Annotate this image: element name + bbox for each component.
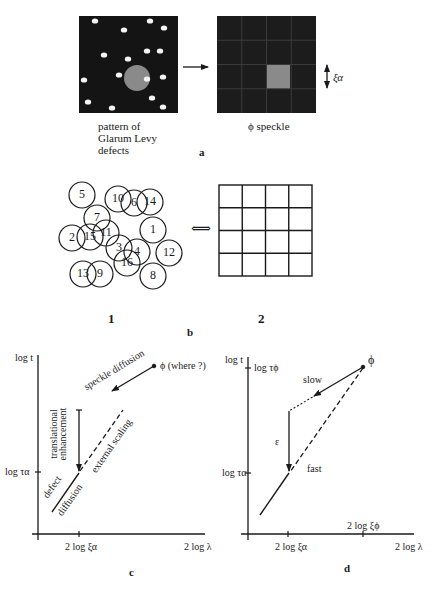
label-1: 1 bbox=[108, 311, 115, 327]
defect-caption-line-1: pattern of bbox=[98, 120, 140, 132]
panel-d-plot bbox=[241, 357, 414, 540]
defect-dot bbox=[149, 95, 155, 100]
defect-dot bbox=[116, 72, 122, 77]
defect-caption-line-3: defects bbox=[98, 144, 129, 156]
defect-dot bbox=[161, 25, 167, 30]
defect-dot bbox=[144, 48, 150, 53]
circle-label: 8 bbox=[143, 269, 163, 281]
defect-dot bbox=[101, 52, 107, 57]
d-xi-phi-label: 2 log ξϕ bbox=[347, 520, 380, 532]
circle-label: 1 bbox=[143, 223, 163, 235]
d-xi-alpha-label: 2 log ξα bbox=[275, 541, 307, 553]
circle-label: 2 bbox=[62, 231, 82, 243]
c-lambda-label: 2 log λ bbox=[184, 541, 212, 553]
defect-caption-line-2: Glarum Levy bbox=[98, 132, 157, 144]
circle-label: 5 bbox=[72, 188, 92, 200]
defect-dot bbox=[160, 74, 166, 79]
c-phi-where-label: ϕ (where ?) bbox=[160, 360, 206, 372]
speckle-caption: ϕ speckle bbox=[248, 120, 290, 132]
d-y-axis-label: log t bbox=[225, 354, 243, 366]
slow-label: slow bbox=[303, 374, 322, 386]
label-2: 2 bbox=[258, 311, 265, 327]
defect-dot bbox=[144, 76, 150, 81]
speckle-grid-box bbox=[217, 16, 316, 113]
defect-dot bbox=[121, 27, 127, 32]
circle-label: 11 bbox=[96, 226, 116, 238]
circle-label: 9 bbox=[90, 267, 110, 279]
defect-dot bbox=[160, 104, 166, 109]
defect-dot bbox=[147, 18, 153, 23]
fast-label: fast bbox=[307, 463, 321, 475]
d-tau-phi-label: log τϕ bbox=[254, 362, 279, 374]
circle-label: 12 bbox=[159, 246, 179, 258]
defect-pattern-box bbox=[79, 16, 178, 113]
equivalence-arrow: ⟺ bbox=[191, 223, 211, 235]
defect-dot bbox=[92, 18, 98, 23]
regular-grid bbox=[219, 185, 312, 276]
panel-label-a: a bbox=[199, 146, 205, 158]
epsilon-label: ε bbox=[275, 436, 279, 448]
circle-label: 7 bbox=[87, 211, 107, 223]
defect-dot bbox=[125, 56, 131, 61]
d-phi-label: ϕ bbox=[368, 354, 374, 366]
highlight-cell bbox=[266, 65, 290, 89]
panel-label-c: c bbox=[129, 566, 134, 578]
circle-label: 14 bbox=[140, 195, 160, 207]
c-tau-alpha-label: log τα bbox=[5, 466, 30, 478]
panel-label-d: d bbox=[344, 562, 350, 574]
c-y-axis-label: log t bbox=[15, 352, 33, 364]
circle-label: 3 bbox=[109, 241, 129, 253]
circle-label: 16 bbox=[117, 256, 137, 268]
panel-label-b: b bbox=[187, 326, 193, 338]
d-lambda-label: 2 log λ bbox=[395, 541, 423, 553]
c-xi-alpha-label: 2 log ξα bbox=[65, 541, 97, 553]
defect-dot bbox=[157, 48, 163, 53]
defect-dot bbox=[85, 99, 91, 104]
xi-alpha-label: ξα bbox=[333, 71, 343, 83]
defect-dot bbox=[81, 77, 87, 82]
defect-dot bbox=[109, 105, 115, 110]
d-tau-alpha-label: log τα bbox=[222, 467, 247, 479]
enhancement-label: enhancement bbox=[57, 408, 69, 461]
